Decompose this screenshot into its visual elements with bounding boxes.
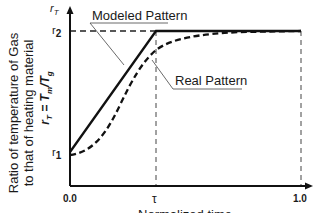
y-axis-label-line1: Ratio of temperature of Gas [6, 32, 21, 193]
real-pattern-curve [70, 31, 301, 155]
modeled-pattern-label: Modeled Pattern [92, 8, 187, 23]
y-axis-arrow-icon [67, 6, 74, 14]
r2-tick-label: r2 [52, 24, 62, 39]
chart: Modeled Pattern Real Pattern rT r2 r1 0.… [0, 0, 314, 213]
real-pattern-label: Real Pattern [175, 73, 247, 88]
x-axis-arrow-icon [305, 183, 313, 190]
x-tick-tau: τ [152, 192, 157, 206]
x-axis-label: Normalized time [138, 207, 232, 213]
y-axis-label-line2: to that of heating material [21, 40, 36, 187]
x-tick-0: 0.0 [63, 193, 77, 204]
r1-tick-label: r1 [52, 146, 62, 161]
y-axis-symbol: rT [50, 2, 60, 17]
x-tick-1: 1.0 [293, 193, 307, 204]
y-axis-formula: rT = Tm/Tg [38, 71, 54, 124]
